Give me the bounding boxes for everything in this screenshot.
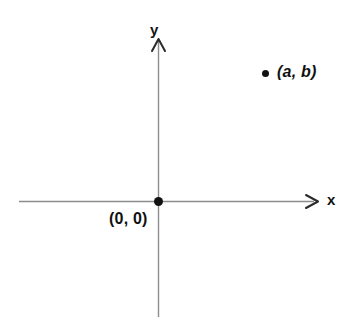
point-ab-coordinate-label: (a, b) xyxy=(277,64,316,80)
coordinate-plane-figure: y x (0, 0) (a, b) xyxy=(0,0,345,317)
y-axis-label: y xyxy=(150,22,158,37)
origin-point-marker xyxy=(154,197,163,206)
axes-group xyxy=(0,0,345,317)
point-ab-marker xyxy=(262,70,269,77)
origin-coordinate-label: (0, 0) xyxy=(109,211,148,227)
x-axis-label: x xyxy=(327,192,335,207)
